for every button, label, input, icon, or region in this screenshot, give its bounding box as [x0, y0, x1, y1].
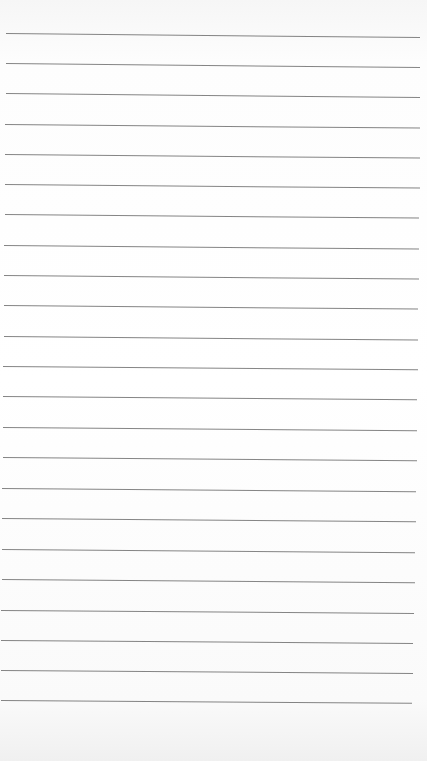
ruled-line	[5, 154, 420, 159]
ruled-line	[3, 427, 417, 431]
ruled-line	[2, 549, 415, 553]
ruled-line	[5, 184, 420, 189]
ruled-line	[3, 396, 417, 400]
ruled-line	[6, 33, 420, 38]
ruled-line	[6, 93, 420, 98]
ruled-line	[2, 518, 416, 522]
ruled-line	[1, 670, 413, 674]
ruled-line	[3, 457, 417, 461]
ruled-line	[1, 700, 412, 704]
ruled-line	[4, 305, 418, 310]
ruled-line	[6, 63, 420, 68]
ruled-line	[2, 579, 415, 583]
ruled-line	[4, 245, 419, 250]
ruled-line	[1, 640, 413, 644]
ruled-line	[1, 610, 414, 614]
ruled-line	[3, 366, 418, 370]
lined-paper	[0, 0, 427, 761]
ruled-line	[5, 124, 420, 129]
ruled-line	[4, 275, 419, 280]
ruled-line	[5, 214, 419, 219]
ruled-line	[4, 336, 418, 341]
ruled-line	[2, 488, 416, 492]
